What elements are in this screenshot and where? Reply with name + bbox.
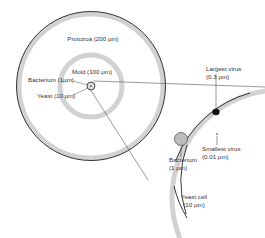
bacterium-large-label-line1: Bacterium [169, 156, 197, 163]
largest-virus-label-line1: Largest virus [206, 65, 241, 72]
bacterium-label: Bacterium (1µm) [28, 76, 74, 83]
yeast-cell-label-line2: (10 µm) [183, 201, 204, 208]
largest-virus-label-line2: (0.3 µm) [206, 73, 229, 80]
bacterium-large-label-line2: (1 µm) [169, 164, 187, 171]
yeast-cell-small [87, 82, 95, 90]
smallest-virus-label-line2: (0.01 µm) [202, 153, 229, 160]
mold-label: Mold (100 µm) [72, 68, 112, 75]
smallest-virus [216, 133, 218, 135]
largest-virus [212, 109, 219, 116]
bacterium-large [175, 133, 188, 146]
protozoa-label: Protozoa (200 µm) [67, 35, 118, 42]
microorganism-size-diagram: Protozoa (200 µm) Mold (100 µm) Bacteriu… [0, 0, 265, 238]
bacterium-dot-small [90, 85, 92, 87]
yeast-label: Yeast (10 µm) [37, 92, 75, 99]
smallest-virus-label-line1: Smallest virus [202, 145, 241, 152]
yeast-cell-label-line1: Yeast cell [181, 193, 207, 200]
